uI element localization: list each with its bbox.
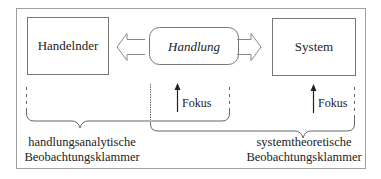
arrow-right-icon [237,34,261,61]
focus-arrow-up-icon [175,83,181,90]
right-bracket-line [151,83,355,138]
right-bracket-label-line1: systemtheoretische [256,135,352,149]
system-node: System [273,19,356,76]
focus-arrow-up-icon [311,84,317,91]
right-bracket-label-line2: Beobachtungsklammer [246,150,362,164]
middle-focus-label: Fokus [182,96,212,110]
left-bracket-label-line1: handlungsanalytische [28,135,136,149]
actor-label: Handelnder [38,38,99,53]
actor-node: Handelnder [28,18,109,75]
system-label: System [295,39,333,54]
diagram-canvas: Handelnder Handlung System Fokus Fokus [0,0,381,179]
action-label: Handlung [167,39,221,54]
arrow-left-icon [117,34,145,61]
right-bracket [151,83,355,138]
middle-focus: Fokus [175,83,212,112]
action-node: Handlung [150,28,239,65]
right-focus: Fokus [311,84,348,113]
left-bracket-label-line2: Beobachtungsklammer [24,150,140,164]
right-focus-label: Fokus [318,96,348,110]
